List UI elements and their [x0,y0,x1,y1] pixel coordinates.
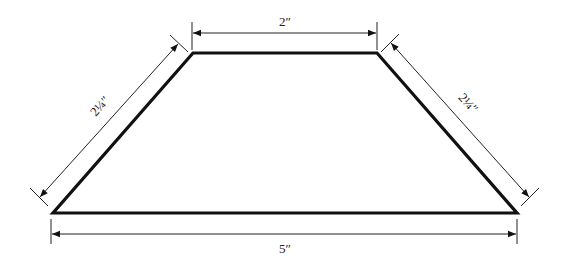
right-dimension-label: 2¼″ [456,90,482,116]
right-dimension: 2¼″ [381,34,539,206]
top-dimension-label: 2″ [279,14,291,29]
top-dimension: 2″ [192,14,377,50]
trapezoid-shape [53,53,517,213]
bottom-dimension: 5″ [51,219,517,256]
bottom-dimension-label: 5″ [279,241,291,256]
trapezoid-diagram: 2″ 5″ 2¼″ 2¼″ [0,0,567,269]
left-dimension-label: 2¼″ [87,93,113,119]
left-dimension: 2¼″ [30,35,188,206]
